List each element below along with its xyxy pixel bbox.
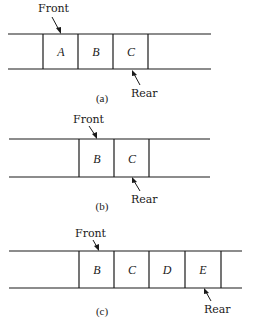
queue-cell-c: C <box>128 263 137 277</box>
queue-cell-b: B <box>93 152 101 166</box>
front-arrow-icon <box>89 126 97 139</box>
queue-cell-d: D <box>162 263 172 277</box>
front-label: Front <box>73 113 105 126</box>
caption-b: (b) <box>96 200 109 213</box>
rear-arrow-icon <box>132 177 140 191</box>
queue-cell-b: B <box>93 263 101 277</box>
front-label: Front <box>38 2 70 15</box>
queue-diagram-a: A B C Front Rear (a) <box>8 2 211 105</box>
front-arrow-icon <box>93 240 99 251</box>
rear-label: Rear <box>131 87 158 100</box>
rear-label: Rear <box>131 193 158 206</box>
queue-cell-c: C <box>127 45 136 59</box>
queue-diagram-figure: A B C Front Rear (a) B C Front Rear <box>0 0 260 324</box>
queue-cell-a: A <box>56 45 65 59</box>
rear-arrow-icon <box>132 70 140 85</box>
queue-diagram-c: B C D E Front Rear (c) <box>9 227 242 318</box>
caption-a: (a) <box>96 92 109 105</box>
front-label: Front <box>75 227 107 240</box>
front-arrow-icon <box>52 17 61 34</box>
queue-cell-b: B <box>92 45 100 59</box>
rear-label: Rear <box>204 303 231 316</box>
queue-diagram-b: B C Front Rear (b) <box>9 113 210 213</box>
caption-c: (c) <box>96 305 109 318</box>
rear-arrow-icon <box>204 288 211 301</box>
queue-cell-c: C <box>128 152 137 166</box>
queue-cell-e: E <box>198 263 207 277</box>
